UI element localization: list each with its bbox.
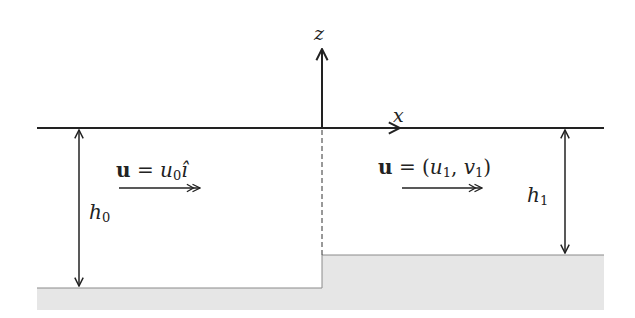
h1-depth-label: h1 — [527, 185, 548, 207]
seabed-right-step — [322, 255, 604, 310]
x-axis-label: x — [393, 106, 404, 125]
diagram-canvas — [0, 0, 635, 318]
left-velocity-label: u = u0î — [116, 160, 188, 182]
right-velocity-label: u = (u1, v1) — [378, 157, 491, 179]
h0-depth-label: h0 — [89, 202, 110, 224]
seabed-left — [37, 288, 323, 310]
z-axis-label: z — [314, 24, 324, 43]
